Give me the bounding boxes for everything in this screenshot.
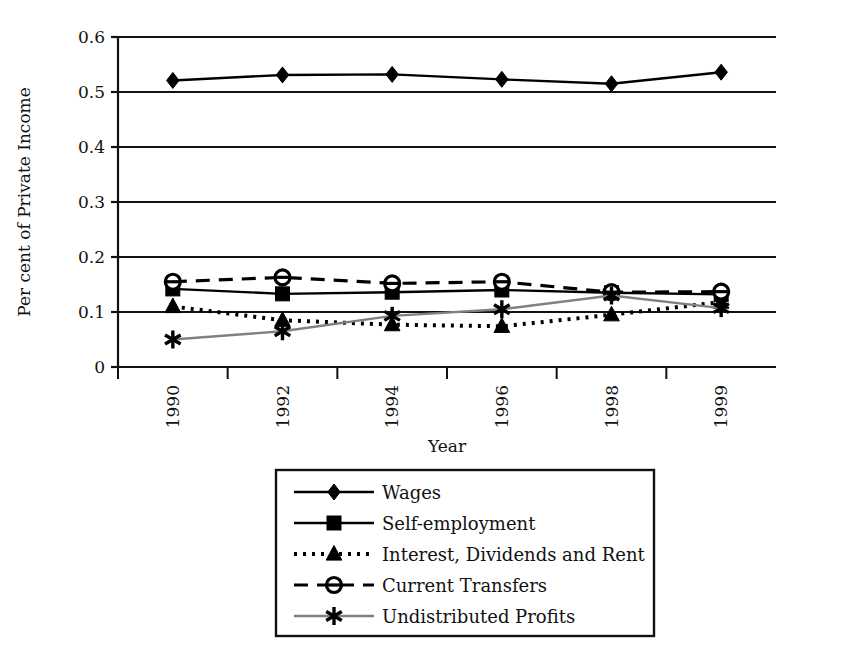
y-tick-label-0.6: 0.6	[78, 27, 105, 47]
line-chart: 0.60.50.40.30.20.10199019921994199619981…	[0, 0, 865, 656]
marker-square	[276, 287, 290, 301]
legend-item-current-transfers[interactable]: Current Transfers	[294, 575, 547, 596]
marker-square	[327, 516, 341, 530]
x-tick-label-1992: 1992	[273, 385, 293, 428]
y-tick-label-0.3: 0.3	[78, 192, 105, 212]
y-tick-label-0.1: 0.1	[78, 302, 105, 322]
y-axis-title: Per cent of Private Income	[14, 87, 34, 317]
y-tick-label-0.5: 0.5	[78, 82, 105, 102]
legend-item-label: Wages	[382, 482, 441, 503]
x-tick-label-1999: 1999	[711, 385, 731, 428]
legend-item-label: Current Transfers	[382, 575, 547, 596]
x-tick-label-1996: 1996	[492, 385, 512, 428]
x-axis-title: Year	[427, 436, 467, 456]
legend-item-label: Self-employment	[382, 513, 536, 534]
legend-item-label: Undistributed Profits	[382, 606, 575, 627]
y-tick-label-0.4: 0.4	[78, 137, 105, 157]
x-tick-label-1994: 1994	[382, 385, 402, 428]
y-tick-label-0.2: 0.2	[78, 247, 105, 267]
x-tick-label-1990: 1990	[163, 385, 183, 428]
x-tick-label-1998: 1998	[602, 385, 622, 428]
chart-container: 0.60.50.40.30.20.10199019921994199619981…	[0, 0, 865, 656]
y-tick-label-0: 0	[94, 357, 105, 377]
legend-item-label: Interest, Dividends and Rent	[382, 544, 645, 565]
legend: WagesSelf-employmentInterest, Dividends …	[276, 470, 654, 636]
